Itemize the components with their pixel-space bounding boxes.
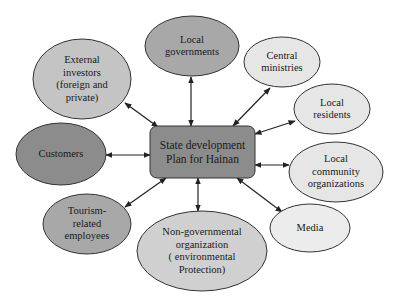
node-text: Local residents [313,97,350,122]
node-text: Local governments [165,34,219,59]
node-label-media: Media [270,204,350,252]
node-label-non-governmental-organization: Non-governmental organization ( environm… [137,211,267,291]
arrow-local-residents [255,121,295,134]
node-label-external-investors: External investors (foreign and private) [33,39,131,119]
node-text: Central ministries [261,50,302,75]
node-label-central-ministries: Central ministries [244,37,320,87]
center-text: State development Plan for Hainan [160,138,245,166]
node-text: Non-governmental organization ( environm… [162,226,241,276]
node-label-tourism-related-employees: Tourism- related employees [43,194,131,254]
node-text: Tourism- related employees [65,205,110,243]
arrow-central-ministries [233,88,270,126]
center-label: State development Plan for Hainan [150,126,255,178]
node-label-customers: Customers [16,123,106,185]
arrow-tourism-related-employees [125,178,166,207]
node-label-local-governments: Local governments [145,16,239,76]
node-label-local-community-organizations: Local community organizations [289,142,383,202]
node-text: Customers [39,148,84,161]
node-text: Media [297,222,324,235]
node-text: Local community organizations [308,153,364,191]
node-label-local-residents: Local residents [294,84,370,134]
node-text: External investors (foreign and private) [56,54,108,104]
